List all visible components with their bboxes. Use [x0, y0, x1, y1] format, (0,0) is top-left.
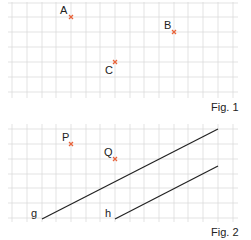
grid-fig1 — [8, 2, 238, 98]
point-q-label: Q — [104, 146, 113, 158]
figure-2-caption: Fig. 2 — [211, 226, 239, 238]
point-b-label: B — [164, 19, 171, 31]
line-h-label: h — [105, 207, 111, 219]
line-g-label: g — [31, 207, 37, 219]
point-p-label: P — [62, 131, 69, 143]
figure-1-caption: Fig. 1 — [211, 101, 239, 113]
point-a-label: A — [60, 4, 68, 16]
point-c-label: C — [105, 64, 113, 76]
diagram-canvas: A B C Fig. 1 P Q g h Fig. 2 — [0, 0, 251, 240]
